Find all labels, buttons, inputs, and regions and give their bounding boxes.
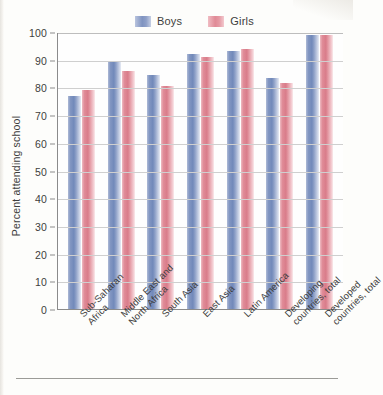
y-axis-tick-label: 80 (35, 82, 47, 94)
y-axis-tick (50, 60, 55, 61)
y-axis-tick-label: 60 (35, 138, 47, 150)
bar-boys (187, 54, 200, 309)
y-axis-tick-label: 30 (35, 221, 47, 233)
grid-line (58, 33, 343, 34)
grid-line (58, 144, 343, 145)
legend-item-girls: Girls (208, 15, 254, 27)
y-axis-tick (50, 254, 55, 255)
y-axis-tick-label: 10 (35, 276, 47, 288)
grid-line (58, 282, 343, 283)
y-axis-tick (50, 171, 55, 172)
legend-swatch-girls (208, 16, 224, 27)
bar-boys (68, 96, 81, 309)
bar-girls (201, 57, 214, 309)
chart-legend: Boys Girls (135, 13, 305, 29)
y-axis-tick-label: 40 (35, 193, 47, 205)
y-axis-tick (50, 310, 55, 311)
y-axis-tick (50, 33, 55, 34)
grid-line (58, 116, 343, 117)
y-axis-tick (50, 226, 55, 227)
y-axis-tick-label: 90 (35, 55, 47, 67)
y-axis-tick-label: 20 (35, 249, 47, 261)
grid-line (58, 255, 343, 256)
y-axis-tick (50, 199, 55, 200)
y-axis-tick-label: 0 (41, 304, 47, 316)
bar-boys (227, 51, 240, 309)
grid-line (58, 227, 343, 228)
x-axis-tick-labels: Sub-Saharan AfricaMiddle East and North … (57, 312, 343, 382)
grid-line (58, 172, 343, 173)
legend-item-boys: Boys (135, 15, 182, 27)
legend-label-boys: Boys (157, 15, 182, 27)
grid-line (58, 199, 343, 200)
y-axis-tick-label: 100 (29, 27, 47, 39)
legend-swatch-boys (135, 16, 151, 27)
y-axis-tick-label: 50 (35, 166, 47, 178)
y-axis-tick (50, 143, 55, 144)
y-axis-tick-labels: 0102030405060708090100 (0, 33, 52, 310)
y-axis-tick (50, 116, 55, 117)
plot-area (57, 33, 343, 310)
y-axis-tick-label: 70 (35, 110, 47, 122)
legend-label-girls: Girls (230, 15, 254, 27)
plot-frame (57, 33, 343, 310)
bar-girls (122, 71, 135, 309)
y-axis-tick (50, 88, 55, 89)
y-axis-tick (50, 282, 55, 283)
grid-line (58, 61, 343, 62)
grid-line (58, 88, 343, 89)
